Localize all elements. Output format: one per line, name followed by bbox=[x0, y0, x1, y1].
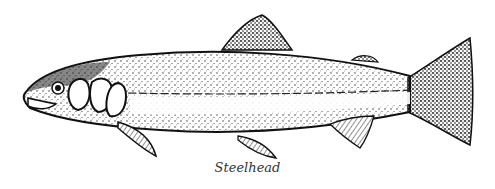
adipose-fin bbox=[352, 56, 378, 62]
caption: Steelhead bbox=[0, 160, 495, 175]
dorsal-fin bbox=[222, 15, 292, 50]
pelvic-fin bbox=[238, 136, 276, 158]
tail-fin bbox=[408, 38, 473, 145]
illustration-canvas: Steelhead bbox=[0, 0, 495, 189]
